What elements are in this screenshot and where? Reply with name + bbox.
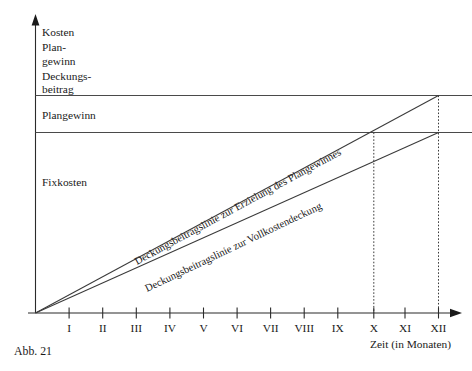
figure-caption: Abb. 21 [14,341,52,359]
plangewinn-band-label: Plangewinn [42,109,96,121]
guide-lines-group [374,96,439,314]
y-axis-caption-line-1: Kosten [42,26,75,38]
tick-label-4: IV [164,322,177,334]
x-axis-tick-labels-group: I II III IV V VI VII VIII IX X XI XII [67,322,446,334]
tick-label-7: VII [263,322,279,334]
tick-label-10: X [370,322,379,334]
tick-label-1: I [67,322,71,334]
fixkosten-band-label: Fixkosten [42,176,87,188]
y-axis-caption-line-4: Deckungs- [42,70,92,82]
y-axis-caption-line-5: beitrag [42,83,74,95]
y-axis-caption-line-2: Plan- [42,41,66,53]
break-even-contribution-chart: I II III IV V VI VII VIII IX X XI XII Ze… [0,0,472,371]
x-axis-caption: Zeit (in Monaten) [370,338,451,351]
x-axis-group [28,309,462,318]
x-axis-arrow-icon [450,309,462,318]
tick-label-5: V [199,322,208,334]
y-axis-caption-group: Kosten Plan- gewinn Deckungs- beitrag [42,26,92,95]
y-axis-group [32,14,40,313]
figure-caption-text: Abb. 21 [14,344,52,358]
tick-label-11: XI [399,322,411,334]
tick-label-12: XII [431,322,447,334]
tick-label-6: VI [231,322,243,334]
y-axis-caption-line-3: gewinn [42,55,76,67]
level-lines-group [36,96,472,133]
tick-label-2: II [99,322,107,334]
tick-label-8: VIII [294,322,314,334]
tick-label-9: IX [332,322,345,334]
vollkosten-contribution-line [36,133,439,314]
figure-abb-21: I II III IV V VI VII VIII IX X XI XII Ze… [0,0,472,371]
tick-label-3: III [131,322,143,334]
y-axis-arrow-icon [32,14,40,26]
